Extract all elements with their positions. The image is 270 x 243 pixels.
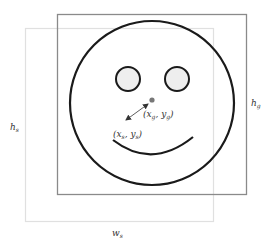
- label-gaze-point: (xg, yg): [143, 109, 174, 121]
- nose-point: [149, 97, 154, 102]
- label-start-point: (xs, ys): [113, 129, 143, 140]
- bounding-box-g: [58, 15, 247, 195]
- label-width-s: ws: [112, 228, 123, 239]
- smiley-diagram: (xg, yg) (xs, ys) hs hg ws: [0, 0, 270, 243]
- label-height-g: hg: [251, 98, 261, 110]
- left-eye: [116, 67, 140, 91]
- label-height-s: hs: [10, 122, 19, 133]
- bounding-box-s: [26, 29, 214, 222]
- smile: [113, 137, 193, 154]
- face-outline: [70, 21, 234, 185]
- right-eye: [165, 67, 189, 91]
